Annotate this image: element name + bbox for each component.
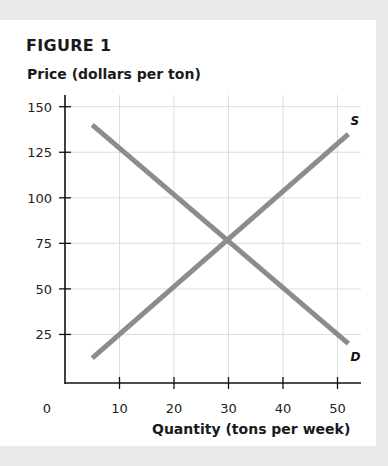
curve-d: [92, 125, 348, 344]
curve-label-d: D: [350, 350, 360, 364]
y-tick-label: 25: [35, 327, 52, 342]
x-tick-label: 40: [275, 401, 292, 416]
y-tick-label: 150: [27, 100, 52, 115]
curve-label-s: S: [350, 114, 359, 128]
curve-s: [92, 134, 348, 358]
x-tick-label: 50: [329, 401, 346, 416]
x-tick-label: 0: [43, 401, 51, 416]
x-tick-label: 20: [166, 401, 183, 416]
x-tick-label: 30: [220, 401, 237, 416]
y-tick-label: 100: [27, 191, 52, 206]
supply-demand-chart: 25507510012515001020304050SD: [0, 0, 388, 466]
x-tick-label: 10: [111, 401, 128, 416]
y-tick-label: 125: [27, 145, 52, 160]
y-tick-label: 50: [35, 282, 52, 297]
y-tick-label: 75: [35, 236, 52, 251]
